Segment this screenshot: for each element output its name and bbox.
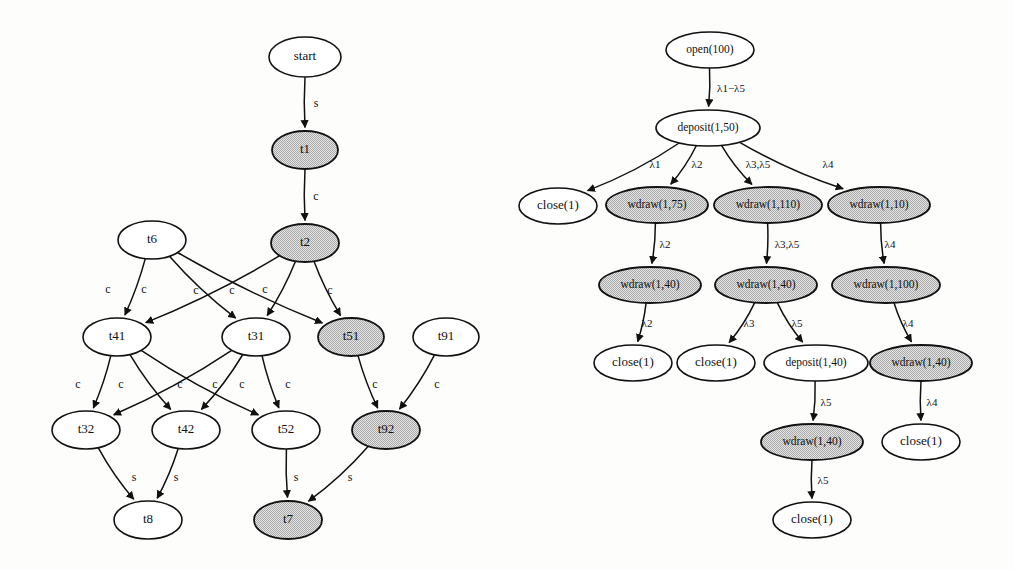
left_graph-edge-label-t52-to-t7: s <box>294 470 299 484</box>
left_graph-node-t8[interactable]: t8 <box>114 501 182 539</box>
right_graph-edge-label-wd140_b-to-close_c: λ3 <box>744 317 755 329</box>
left_graph-node-t52[interactable]: t52 <box>252 411 320 449</box>
left_graph-edge-label-t2-to-t41: c <box>229 283 234 297</box>
left_graph-node-start[interactable]: start <box>269 37 341 77</box>
left_graph-node-t92[interactable]: t92 <box>352 411 420 449</box>
right_graph-edge-dep150-to-wd1110 <box>722 145 752 184</box>
right_graph-node-close_a[interactable]: close(1) <box>519 188 597 224</box>
right_graph-node-shape-close_e <box>773 502 851 538</box>
left_graph-edge-t31-to-t32 <box>114 350 232 415</box>
left_graph-edge-label-t6-to-t41: c <box>105 282 110 296</box>
left_graph-edge-label-t51-to-t92: c <box>372 377 377 391</box>
right-graph-nodes: open(100)deposit(1,50)close(1)wdraw(1,75… <box>519 32 972 538</box>
left_graph-node-t7[interactable]: t7 <box>254 501 322 539</box>
left_graph-edge-t31-to-t52 <box>262 356 279 408</box>
left_graph-node-shape-t31 <box>222 318 290 356</box>
right_graph-edge-label-wd140_b-to-dep140: λ5 <box>792 317 803 329</box>
left_graph-edge-label-t31-to-t42: c <box>239 377 244 391</box>
left_graph-node-shape-t92 <box>352 411 420 449</box>
left_graph-node-shape-t52 <box>252 411 320 449</box>
right_graph-node-shape-wd1100 <box>832 267 940 303</box>
right_graph-node-close_c[interactable]: close(1) <box>677 345 755 381</box>
left_graph-edge-t52-to-t7 <box>286 449 287 498</box>
right_graph-node-shape-wd140_a <box>599 267 701 303</box>
right_graph-edge-label-wd1110-to-wd140_b: λ3,λ5 <box>775 238 800 250</box>
left_graph-edge-label-t32-to-t8: s <box>132 470 137 484</box>
right_graph-node-close_e[interactable]: close(1) <box>773 502 851 538</box>
right_graph-edge-wd140_b-to-dep140 <box>777 303 802 343</box>
right_graph-edge-wd1110-to-wd140_b <box>767 223 768 264</box>
figure-root: startt1t2t6t41t31t51t91t32t42t52t92t8t7 … <box>0 0 1013 570</box>
graph-canvas: startt1t2t6t41t31t51t91t32t42t52t92t8t7 … <box>0 0 1013 570</box>
left_graph-edge-label-t91-to-t92: c <box>434 377 439 391</box>
right_graph-node-wd140_c[interactable]: wdraw(1,40) <box>870 345 972 381</box>
right_graph-edge-label-wd140_c-to-close_d: λ4 <box>927 396 938 408</box>
right_graph-node-wd175[interactable]: wdraw(1,75) <box>606 187 708 223</box>
right_graph-edge-label-wd140_d-to-close_e: λ5 <box>818 474 829 486</box>
left_graph-node-shape-t91 <box>413 318 479 356</box>
right_graph-edge-wd1100-to-wd140_c <box>894 303 912 342</box>
left_graph-edge-label-t41-to-t42: c <box>118 377 123 391</box>
left_graph-edge-label-t31-to-t32: c <box>212 377 217 391</box>
right_graph-edge-wd110-to-wd1100 <box>881 223 885 264</box>
right_graph-node-close_b[interactable]: close(1) <box>594 345 672 381</box>
right_graph-node-wd140_b[interactable]: wdraw(1,40) <box>715 267 817 303</box>
right_graph-edge-wd140_b-to-close_c <box>729 303 755 343</box>
left_graph-node-t41[interactable]: t41 <box>83 318 151 356</box>
left_graph-edge-t51-to-t92 <box>358 356 378 409</box>
right_graph-node-wd1110[interactable]: wdraw(1,110) <box>714 187 822 223</box>
right_graph-node-shape-wd175 <box>606 187 708 223</box>
left_graph-node-shape-t7 <box>254 501 322 539</box>
right_graph-edge-label-wd110-to-wd1100: λ4 <box>885 238 896 250</box>
left_graph-edge-label-t42-to-t8: s <box>174 470 179 484</box>
right_graph-edge-dep150-to-close_a <box>588 143 680 191</box>
left_graph-edge-t1-to-t2 <box>304 169 305 221</box>
left_graph-node-t31[interactable]: t31 <box>222 318 290 356</box>
right_graph-edge-label-dep150-to-wd1110: λ3,λ5 <box>746 158 771 170</box>
right_graph-node-wd110[interactable]: wdraw(1,10) <box>828 187 930 223</box>
right_graph-node-shape-wd140_b <box>715 267 817 303</box>
right_graph-node-shape-wd140_c <box>870 345 972 381</box>
right_graph-node-open100[interactable]: open(100) <box>666 32 754 68</box>
right_graph-node-shape-close_a <box>519 188 597 224</box>
right_graph-edge-label-dep140-to-wd140_d: λ5 <box>821 396 832 408</box>
right_graph-edge-label-dep150-to-close_a: λ1 <box>650 158 661 170</box>
left_graph-edge-start-to-t1 <box>304 77 305 128</box>
left_graph-node-t51[interactable]: t51 <box>318 318 384 356</box>
left_graph-node-shape-t1 <box>272 131 338 169</box>
right_graph-edge-wd140_c-to-close_d <box>920 381 921 421</box>
left_graph-node-t91[interactable]: t91 <box>413 318 479 356</box>
left_graph-edge-label-t1-to-t2: c <box>313 189 318 203</box>
left_graph-node-t6[interactable]: t6 <box>118 221 186 259</box>
right_graph-node-shape-wd110 <box>828 187 930 223</box>
right_graph-node-wd140_d[interactable]: wdraw(1,40) <box>761 424 863 460</box>
left_graph-node-t1[interactable]: t1 <box>272 131 338 169</box>
right_graph-node-dep140[interactable]: deposit(1,40) <box>764 345 868 381</box>
right_graph-node-wd1100[interactable]: wdraw(1,100) <box>832 267 940 303</box>
left_graph-edge-t41-to-t42 <box>130 355 171 410</box>
right_graph-edge-label-open100-to-dep150: λ1−λ5 <box>717 82 745 94</box>
left_graph-node-t42[interactable]: t42 <box>152 411 220 449</box>
right_graph-node-shape-close_d <box>882 424 960 460</box>
right_graph-node-shape-open100 <box>666 32 754 68</box>
left-graph-nodes: startt1t2t6t41t31t51t91t32t42t52t92t8t7 <box>52 37 479 539</box>
left_graph-node-t2[interactable]: t2 <box>271 224 339 262</box>
right_graph-edge-dep140-to-wd140_d <box>813 381 815 421</box>
left_graph-edge-t42-to-t8 <box>157 449 178 499</box>
left_graph-edge-label-t92-to-t7: s <box>348 470 353 484</box>
right_graph-node-shape-wd1110 <box>714 187 822 223</box>
right_graph-node-close_d[interactable]: close(1) <box>882 424 960 460</box>
right_graph-node-dep150[interactable]: deposit(1,50) <box>656 110 760 146</box>
left_graph-node-shape-t32 <box>52 411 120 449</box>
left_graph-node-shape-t2 <box>271 224 339 262</box>
right_graph-node-wd140_a[interactable]: wdraw(1,40) <box>599 267 701 303</box>
left_graph-node-t32[interactable]: t32 <box>52 411 120 449</box>
right_graph-edge-wd175-to-wd140_a <box>652 223 656 264</box>
right_graph-edge-label-wd1100-to-wd140_c: λ4 <box>903 317 914 329</box>
right_graph-node-shape-close_c <box>677 345 755 381</box>
right_graph-node-shape-dep150 <box>656 110 760 146</box>
left_graph-edge-label-t6-to-t31: c <box>141 282 146 296</box>
left_graph-edge-t32-to-t8 <box>98 448 134 500</box>
right_graph-node-shape-dep140 <box>764 345 868 381</box>
left_graph-node-shape-t51 <box>318 318 384 356</box>
